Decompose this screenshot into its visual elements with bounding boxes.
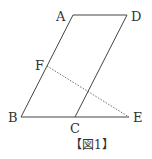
label-F: F bbox=[35, 58, 44, 73]
segment-DC bbox=[75, 15, 127, 117]
figure-caption: 【図1】 bbox=[70, 138, 114, 152]
parallelogram-diagram: A D F B C E 【図1】 bbox=[0, 0, 152, 159]
label-A: A bbox=[55, 9, 66, 24]
segment-FE-dotted bbox=[47, 66, 129, 117]
label-C: C bbox=[70, 121, 80, 136]
label-B: B bbox=[8, 110, 18, 125]
label-D: D bbox=[131, 9, 141, 24]
label-E: E bbox=[133, 110, 143, 125]
